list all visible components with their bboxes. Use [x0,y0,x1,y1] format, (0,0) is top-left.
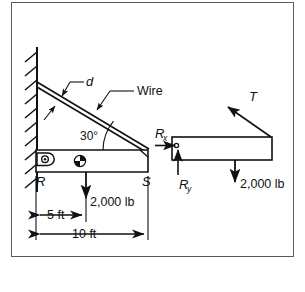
engineering-diagram-canvas: 30° d Wire R S 2,000 lb [0,0,305,292]
wire-label: Wire [137,84,163,98]
figure-root: 30° d Wire R S 2,000 lb [0,0,305,292]
reaction-y-subscript: y [186,184,192,194]
dimension-10ft: 10 ft [40,227,144,241]
point-label-s: S [142,174,151,189]
free-body-diagram-group: T R x R y 2,000 lb [155,89,285,194]
wire-thickness-label: d [86,74,94,89]
tension-label: T [249,89,258,104]
dimension-10ft-label: 10 ft [72,227,97,241]
dimension-5ft: 5 ft [40,208,82,222]
pin-center-dot [44,158,46,160]
point-label-r: R [36,174,45,189]
tension-arrow [228,107,271,137]
physical-setup-group: 30° d Wire R S 2,000 lb [25,47,163,241]
fbd-pin-dot [174,143,178,147]
wire-thickness-arrow [44,106,55,120]
load-label-right: 2,000 lb [240,177,285,191]
angle-label: 30° [80,129,98,143]
wire-leader [97,91,134,110]
fbd-beam [172,137,272,160]
reaction-x-subscript: x [162,133,168,143]
wire-thickness-leader [62,82,84,96]
dimension-5ft-label: 5 ft [47,208,65,222]
cg-symbol-icon [74,155,85,166]
load-label-left: 2,000 lb [90,195,135,209]
